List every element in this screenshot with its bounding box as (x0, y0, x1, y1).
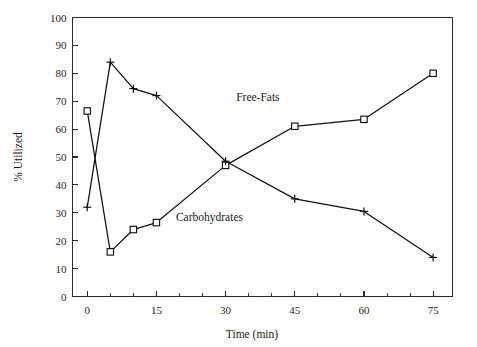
data-point-marker-square (107, 249, 113, 255)
series-annotations: Free-FatsCarbohydrates (176, 91, 280, 224)
plot-frame (73, 18, 453, 297)
y-axis-ticks (73, 18, 78, 297)
data-point-marker-square (84, 108, 90, 114)
x-axis-tick-labels: 01530456075 (85, 304, 440, 316)
y-tick-label: 20 (56, 235, 68, 247)
y-tick-label: 40 (56, 179, 68, 191)
data-point-marker-square (292, 123, 298, 129)
y-tick-label: 60 (56, 123, 68, 135)
data-point-marker-plus (291, 195, 299, 203)
x-axis-ticks (87, 291, 433, 297)
y-axis-tick-labels: 0102030405060708090100 (50, 12, 67, 303)
y-tick-label: 10 (56, 263, 68, 275)
data-point-marker-square (430, 70, 436, 76)
chart-container: 0102030405060708090100 01530456075 Free-… (0, 0, 477, 347)
y-tick-label: 100 (50, 12, 67, 24)
data-point-marker-square (153, 219, 159, 225)
y-tick-label: 0 (61, 291, 67, 303)
x-tick-label: 0 (85, 304, 91, 316)
y-tick-label: 30 (56, 207, 68, 219)
data-point-marker-square (361, 116, 367, 122)
x-tick-label: 75 (428, 304, 440, 316)
data-point-marker-square (130, 226, 136, 232)
data-point-marker-plus (429, 253, 437, 261)
utilization-line-chart: 0102030405060708090100 01530456075 Free-… (0, 0, 477, 347)
x-tick-label: 30 (220, 304, 232, 316)
x-tick-label: 45 (289, 304, 301, 316)
series-label-free-fats: Free-Fats (236, 91, 280, 103)
y-tick-label: 90 (56, 39, 68, 51)
x-tick-label: 15 (151, 304, 163, 316)
x-axis-title: Time (min) (226, 328, 278, 341)
series-layer (83, 58, 437, 261)
y-tick-label: 50 (56, 151, 68, 163)
data-point-marker-plus (360, 207, 368, 215)
axis-frame (73, 18, 453, 297)
x-tick-label: 60 (358, 304, 370, 316)
y-axis-title: % Utilized (12, 132, 24, 182)
series-label-carbohydrates: Carbohydrates (176, 211, 244, 224)
y-tick-label: 80 (56, 67, 68, 79)
y-tick-label: 70 (56, 95, 68, 107)
data-point-marker-plus (83, 203, 91, 211)
